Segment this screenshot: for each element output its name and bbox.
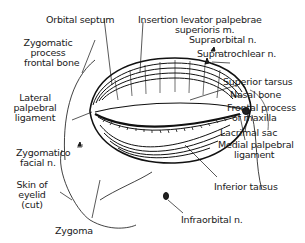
label-medial-palpebral-line2: ligament: [234, 150, 274, 161]
label-supraorbital-nerve: Supraorbital n.: [189, 35, 256, 46]
label-inferior-tarsus: Inferior tarsus: [214, 182, 278, 193]
label-infraorbital-nerve: Infraorbital n.: [181, 215, 243, 226]
label-nasal-bone: Nasal bone: [230, 90, 281, 101]
label-zygomaticofacial-line2: facial n.: [20, 158, 56, 169]
label-supratrochlear-nerve: Supratrochlear n.: [197, 49, 276, 60]
label-lateral-palpebral-line3: ligament: [6, 113, 64, 124]
label-lacrimal-sac: Lacrimal sac: [220, 128, 277, 139]
label-skin-eyelid-line3: (cut): [12, 200, 52, 211]
label-superior-tarsus: Superior tarsus: [223, 77, 293, 88]
label-zygoma: Zygoma: [55, 226, 93, 237]
label-orbital-septum: Orbital septum: [46, 15, 114, 26]
label-frontal-process-line2: of maxilla: [232, 113, 277, 124]
eyelid-anatomy-diagram: Orbital septum Insertion levator palpebr…: [0, 0, 305, 243]
label-zygomatic-process-line3: frontal bone: [24, 58, 79, 69]
